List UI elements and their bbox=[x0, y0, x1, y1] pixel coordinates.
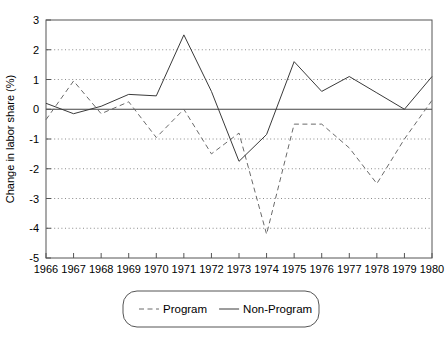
x-tick-label-1977: 1977 bbox=[337, 263, 361, 275]
y-axis-tick-labels: 3210-1-2-3-4-5 bbox=[29, 14, 39, 264]
y-tick-label--2: -2 bbox=[29, 163, 39, 175]
y-tick-label--4: -4 bbox=[29, 222, 39, 234]
gridlines-group bbox=[47, 50, 431, 229]
y-tick-label-3: 3 bbox=[33, 14, 39, 26]
x-axis-tick-labels: 1966196719681969197019711972197319741975… bbox=[34, 263, 444, 275]
chart-legend: ProgramNon-Program bbox=[123, 291, 319, 327]
legend-label-program: Program bbox=[163, 303, 207, 315]
y-tick-label-0: 0 bbox=[33, 103, 39, 115]
x-axis-ticks-group bbox=[46, 253, 432, 258]
x-tick-label-1973: 1973 bbox=[227, 263, 251, 275]
x-tick-label-1970: 1970 bbox=[144, 263, 168, 275]
x-tick-label-1966: 1966 bbox=[34, 263, 58, 275]
y-axis-ticks-group bbox=[46, 20, 51, 258]
y-axis-title: Change in labor share (%) bbox=[4, 75, 16, 203]
y-tick-label-1: 1 bbox=[33, 74, 39, 86]
y-tick-label--1: -1 bbox=[29, 133, 39, 145]
y-tick-label-2: 2 bbox=[33, 44, 39, 56]
legend-label-non-program: Non-Program bbox=[243, 303, 312, 315]
y-tick-label--3: -3 bbox=[29, 193, 39, 205]
chart-svg: 3210-1-2-3-4-5 1966196719681969197019711… bbox=[0, 0, 446, 339]
plot-frame bbox=[46, 20, 432, 258]
series-line-program bbox=[46, 81, 432, 234]
data-series-group bbox=[46, 35, 432, 234]
x-tick-label-1969: 1969 bbox=[116, 263, 140, 275]
x-tick-label-1968: 1968 bbox=[89, 263, 113, 275]
x-tick-label-1978: 1978 bbox=[365, 263, 389, 275]
x-tick-label-1967: 1967 bbox=[61, 263, 85, 275]
chart-figure: 3210-1-2-3-4-5 1966196719681969197019711… bbox=[0, 0, 446, 339]
x-tick-label-1971: 1971 bbox=[172, 263, 196, 275]
x-tick-label-1975: 1975 bbox=[282, 263, 306, 275]
x-tick-label-1980: 1980 bbox=[420, 263, 444, 275]
x-tick-label-1974: 1974 bbox=[254, 263, 278, 275]
x-tick-label-1976: 1976 bbox=[309, 263, 333, 275]
x-tick-label-1972: 1972 bbox=[199, 263, 223, 275]
x-tick-label-1979: 1979 bbox=[392, 263, 416, 275]
series-line-non-program bbox=[46, 35, 432, 161]
